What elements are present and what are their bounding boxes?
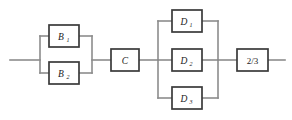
block-b1-box	[49, 25, 79, 47]
block-d1-label: D	[180, 17, 188, 27]
block-d1-subscript: 1	[190, 22, 193, 28]
block-b1-subscript: 1	[67, 37, 70, 43]
block-voter[interactable]: 2/3	[237, 49, 268, 71]
block-c[interactable]: C	[111, 49, 139, 71]
block-d3[interactable]: D 3	[172, 87, 202, 109]
block-d2-label: D	[180, 56, 188, 66]
block-b2-label: B	[58, 69, 64, 79]
block-b2-box	[49, 62, 79, 84]
block-b1-label: B	[58, 32, 64, 42]
block-d1[interactable]: D 1	[172, 10, 202, 32]
diagram-canvas: B 1 B 2 C D 1 D 2 D 3	[0, 0, 292, 120]
block-b1[interactable]: B 1	[49, 25, 79, 47]
block-b2-subscript: 2	[67, 74, 70, 80]
block-d2-subscript: 2	[190, 61, 193, 67]
block-voter-label: 2/3	[247, 56, 259, 66]
reliability-block-diagram: B 1 B 2 C D 1 D 2 D 3	[0, 0, 292, 120]
block-d3-subscript: 3	[189, 99, 193, 105]
block-d3-label: D	[180, 94, 188, 104]
block-b2[interactable]: B 2	[49, 62, 79, 84]
block-c-label: C	[122, 56, 129, 66]
block-d2[interactable]: D 2	[172, 49, 202, 71]
